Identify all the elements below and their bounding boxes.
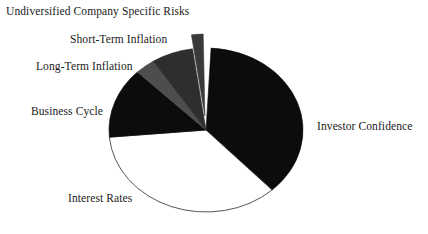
pie-label-undiversified-company-specific-risks: Undiversified Company Specific Risks	[6, 5, 189, 18]
pie-label-investor-confidence: Investor Confidence	[317, 120, 412, 133]
pie-slices-group	[109, 34, 303, 212]
pie-label-short-term-inflation: Short-Term Inflation	[70, 33, 167, 46]
pie-label-long-term-inflation: Long-Term Inflation	[36, 60, 133, 73]
pie-chart-page: Undiversified Company Specific Risks Sho…	[0, 0, 428, 234]
pie-label-interest-rates: Interest Rates	[68, 192, 132, 205]
pie-label-business-cycle: Business Cycle	[31, 105, 103, 118]
